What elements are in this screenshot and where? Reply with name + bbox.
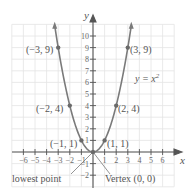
x-tick-label: −3 bbox=[54, 156, 63, 165]
point-label-neg3-9: (−3, 9) bbox=[26, 44, 53, 56]
parabola-chart: −6−5−4−3−2−1123456−2−112345678910 y x (−… bbox=[0, 0, 196, 194]
y-axis-label: y bbox=[83, 9, 89, 21]
x-tick-label: 1 bbox=[103, 156, 107, 165]
x-tick-label: −4 bbox=[42, 156, 51, 165]
equation-base: y = x bbox=[134, 73, 156, 84]
curve-arrow-icon bbox=[52, 22, 57, 29]
y-tick-label: 2 bbox=[85, 125, 89, 134]
curve-arrow-icon bbox=[129, 22, 134, 29]
x-tick-label: −5 bbox=[31, 156, 40, 165]
x-tick-label: 3 bbox=[126, 156, 130, 165]
lowest-point-annotation: lowest point bbox=[12, 173, 61, 184]
vertex-leader bbox=[93, 152, 110, 174]
y-tick-label: 9 bbox=[85, 44, 89, 53]
x-tick-label: −2 bbox=[66, 156, 75, 165]
y-tick-label: −2 bbox=[80, 171, 89, 180]
y-tick-label: 4 bbox=[85, 102, 89, 111]
point-label-2-4: (2, 4) bbox=[118, 103, 140, 115]
x-axis-label: x bbox=[179, 154, 185, 166]
equation-exponent: 2 bbox=[156, 72, 160, 80]
data-point bbox=[79, 138, 83, 142]
x-tick-label: 2 bbox=[114, 156, 118, 165]
point-label-1-1: (1, 1) bbox=[107, 138, 129, 150]
y-tick-label: 6 bbox=[85, 78, 89, 87]
x-tick-label: −6 bbox=[19, 156, 28, 165]
x-tick-label: 5 bbox=[149, 156, 153, 165]
x-tick-label: 6 bbox=[161, 156, 165, 165]
y-tick-label: 10 bbox=[81, 32, 89, 41]
y-tick-label: 1 bbox=[85, 136, 89, 145]
point-label-neg1-1: (−1, 1) bbox=[50, 138, 77, 150]
vertex-annotation: Vertex (0, 0) bbox=[105, 173, 155, 185]
x-tick-label: 4 bbox=[137, 156, 141, 165]
point-label-3-9: (3, 9) bbox=[130, 44, 152, 56]
y-tick-label: 7 bbox=[85, 67, 89, 76]
y-tick-label: 3 bbox=[85, 113, 89, 122]
y-tick-label: 8 bbox=[85, 55, 89, 64]
data-point bbox=[68, 103, 72, 107]
y-tick-label: 5 bbox=[85, 90, 89, 99]
point-label-neg2-4: (−2, 4) bbox=[36, 103, 63, 115]
data-point bbox=[56, 45, 60, 49]
y-tick-label: −1 bbox=[80, 160, 89, 169]
y-axis-arrow-icon bbox=[90, 15, 96, 22]
